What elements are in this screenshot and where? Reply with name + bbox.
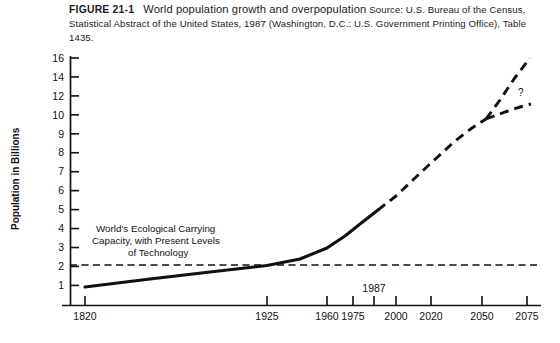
y-axis-ticks: 16141210987654321 (52, 52, 79, 291)
y-tick-label: 8 (58, 146, 64, 158)
uncertainty-question-mark: ? (518, 87, 524, 98)
projected-population-line (378, 119, 486, 210)
chart-figure: 16141210987654321 1820192519601975198720… (0, 0, 560, 343)
y-tick-label: 2 (58, 260, 64, 272)
y-tick-label: 14 (52, 71, 64, 83)
x-tick-label: 1975 (341, 310, 365, 322)
y-tick-label: 10 (52, 109, 64, 121)
x-tick-label: 2020 (419, 310, 443, 322)
y-tick-label: 6 (58, 184, 64, 196)
carrying-capacity-annotation: World's Ecological Carrying Capacity, wi… (92, 223, 220, 258)
x-tick-label: 1925 (255, 310, 279, 322)
x-tick-label: 2000 (384, 310, 408, 322)
x-tick-label: 1987 (362, 282, 386, 294)
y-tick-label: 5 (58, 203, 64, 215)
y-tick-label: 1 (58, 279, 64, 291)
low-projection-branch (486, 104, 531, 119)
y-axis-title: Population in Billions (10, 127, 21, 230)
y-tick-label: 4 (58, 222, 64, 234)
x-tick-label: 2075 (515, 310, 539, 322)
annotation-line-3: of Technology (128, 247, 188, 258)
x-axis-ticks: 182019251960197519872000202020502075 (73, 282, 539, 322)
annotation-line-2: Capacity, with Present Levels (92, 235, 220, 246)
y-tick-label: 3 (58, 241, 64, 253)
x-tick-label: 2050 (470, 310, 494, 322)
annotation-line-1: World's Ecological Carrying (96, 223, 215, 234)
y-tick-label: 12 (52, 90, 64, 102)
y-tick-label: 9 (58, 128, 64, 140)
x-tick-label: 1820 (73, 310, 97, 322)
x-tick-label: 1960 (315, 310, 339, 322)
y-tick-label: 16 (52, 52, 64, 64)
y-tick-label: 7 (58, 165, 64, 177)
